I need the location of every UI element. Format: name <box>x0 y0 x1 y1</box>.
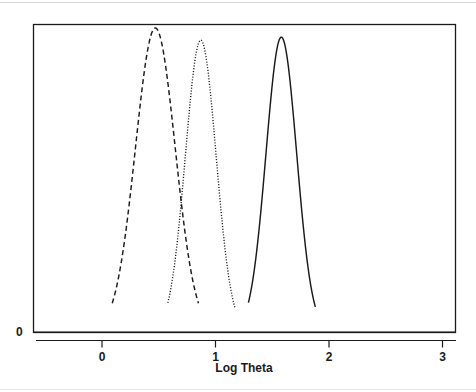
x-tick-label-2: 2 <box>326 350 333 364</box>
plot-frame <box>34 25 456 333</box>
curve-solid-density <box>248 37 315 307</box>
x-tick-label-3: 3 <box>439 350 446 364</box>
plot-canvas <box>0 0 476 392</box>
scan-artifact-top <box>0 2 476 3</box>
density-plot-figure: 0 0123 Log Theta <box>0 0 476 392</box>
curve-dashed-density <box>112 28 198 303</box>
x-axis-title: Log Theta <box>215 361 272 375</box>
x-tick-marks <box>102 341 443 348</box>
scan-artifact-bottom <box>0 389 476 390</box>
y-axis-zero-label: 0 <box>16 325 23 339</box>
density-curves <box>112 28 315 307</box>
x-tick-label-0: 0 <box>99 350 106 364</box>
x-axis <box>36 341 456 348</box>
